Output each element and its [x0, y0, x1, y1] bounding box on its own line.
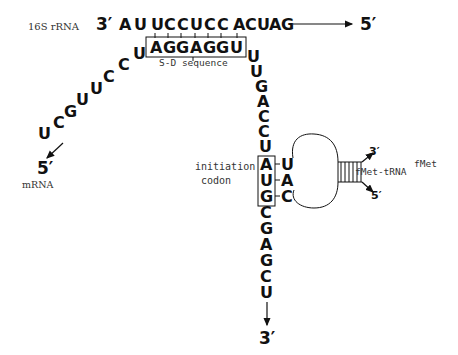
mrna-left-arm: U C G U U C C U: [38, 44, 146, 143]
mrna-3prime: 3′: [259, 328, 276, 348]
svg-text:G: G: [281, 15, 294, 34]
svg-text:C: C: [103, 67, 115, 86]
svg-text:C: C: [217, 15, 229, 34]
svg-text:C: C: [245, 15, 257, 34]
sd-label: S-D sequence: [159, 57, 228, 68]
svg-text:U: U: [151, 15, 164, 34]
svg-text:U: U: [230, 38, 243, 57]
svg-text:C: C: [204, 15, 216, 34]
trna-anticodon: U A C: [281, 155, 294, 206]
codon-label: codon: [201, 175, 231, 186]
svg-text:U: U: [190, 15, 203, 34]
svg-text:G: G: [163, 38, 176, 57]
trna-5prime: 5′: [371, 189, 382, 202]
svg-text:U: U: [90, 79, 103, 98]
svg-text:C: C: [281, 187, 293, 206]
svg-text:U: U: [133, 44, 146, 63]
svg-text:U: U: [259, 137, 272, 156]
svg-text:U: U: [76, 90, 89, 109]
sd-sequence: A G G A G G U: [150, 38, 243, 57]
mrna-downstream: C G A G C U: [260, 203, 273, 302]
trna-loop: [292, 134, 338, 208]
sd-initiation-diagram: 16S rRNA 3′ A U U C C U C C A C U A G 5′…: [0, 0, 458, 355]
svg-text:U: U: [260, 283, 273, 302]
svg-text:G: G: [176, 38, 189, 57]
svg-text:C: C: [118, 55, 130, 74]
svg-text:U: U: [38, 124, 51, 143]
trna-3prime: 3′: [369, 145, 380, 158]
svg-text:A: A: [119, 15, 132, 34]
mrna-5prime-arrow: [47, 143, 63, 158]
svg-text:G: G: [216, 38, 229, 57]
rrna-sequence: A U U C C U C C A C U A G: [119, 15, 294, 34]
trna-label: fMet-tRNA: [355, 166, 407, 177]
initiation-label: initiation: [195, 161, 255, 172]
svg-text:U: U: [134, 15, 147, 34]
svg-text:C: C: [53, 113, 65, 132]
mrna-right-arm: U U G A C C U: [247, 47, 272, 156]
rrna-5prime: 5′: [360, 14, 377, 34]
rrna-label: 16S rRNA: [28, 21, 80, 32]
svg-text:C: C: [164, 15, 176, 34]
rrna-3prime: 3′: [96, 14, 113, 34]
mrna-5prime: 5′: [37, 158, 54, 178]
trna-label-superscript: fMet: [414, 158, 437, 169]
initiation-codon: A U G: [260, 155, 273, 206]
codon-anticodon-ticks: [275, 164, 280, 196]
svg-text:A: A: [150, 38, 163, 57]
mrna-label: mRNA: [22, 179, 53, 190]
svg-text:C: C: [177, 15, 189, 34]
svg-text:G: G: [203, 38, 216, 57]
svg-text:A: A: [190, 38, 203, 57]
